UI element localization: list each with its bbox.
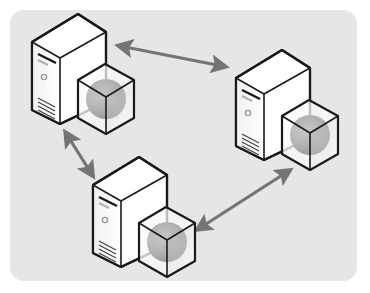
bidirectional-arrow-icon xyxy=(69,138,91,173)
node-server-1 xyxy=(32,14,134,134)
node-server-3 xyxy=(93,157,195,277)
network-diagram xyxy=(0,0,370,293)
edge-server1-server3 xyxy=(69,138,91,173)
server-icon xyxy=(236,50,338,170)
edge-server3-server2 xyxy=(203,172,287,226)
edge-server1-server2 xyxy=(125,47,222,66)
server-icon xyxy=(93,157,195,277)
node-server-2 xyxy=(236,50,338,170)
server-icon xyxy=(32,14,134,134)
bidirectional-arrow-icon xyxy=(203,172,287,226)
bidirectional-arrow-icon xyxy=(125,47,222,66)
